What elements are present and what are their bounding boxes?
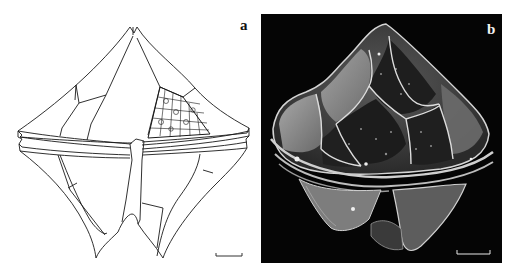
dinoflagellate-line-drawing xyxy=(0,0,258,279)
figure-panel-b: b xyxy=(261,14,502,263)
panel-label-b: b xyxy=(487,22,495,37)
figure-panel-a: a xyxy=(0,0,258,279)
scale-bar-a xyxy=(216,253,242,256)
sem-micrograph xyxy=(261,14,502,263)
scale-bar-b xyxy=(457,250,490,254)
panel-label-a: a xyxy=(240,18,248,33)
